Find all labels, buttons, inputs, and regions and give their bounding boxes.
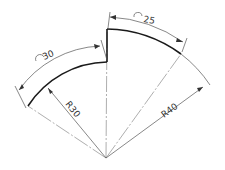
- sector-drawing: 30 25 R30 R40: [0, 0, 225, 170]
- arc-dimension-25: 25: [108, 12, 187, 52]
- radius-dimension-r30: R30: [48, 88, 106, 158]
- radius-r30-label: R30: [63, 99, 82, 119]
- part-outline: [28, 29, 181, 106]
- arc-length-25-label: 25: [143, 14, 156, 26]
- radius-r40-label: R40: [159, 101, 179, 120]
- radius-dimension-r40: R40: [106, 54, 210, 158]
- arc-length-30-label: 30: [41, 48, 56, 62]
